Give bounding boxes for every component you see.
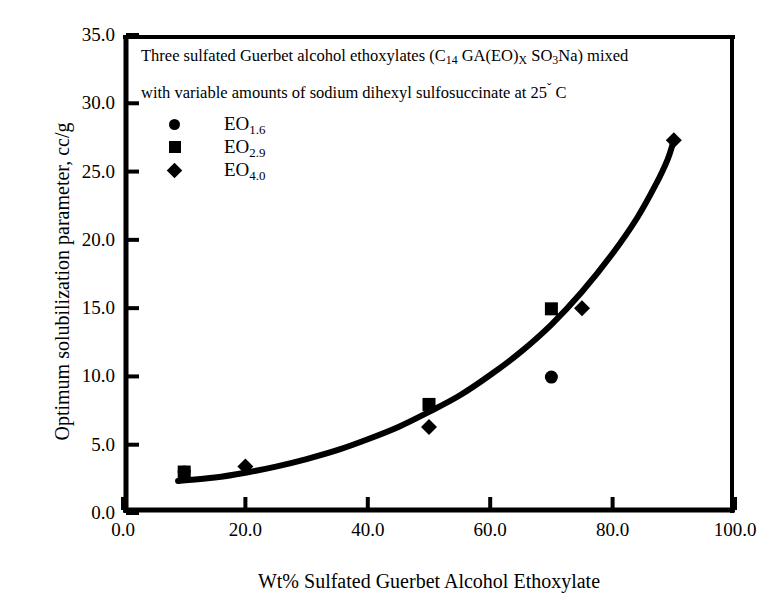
circle-marker-icon xyxy=(169,119,180,130)
caption-l1-sub2: X xyxy=(519,53,528,67)
caption-line-1: Three sulfated Guerbet alcohol ethoxylat… xyxy=(141,42,701,74)
chart-legend: EO1.6EO2.9EO4.0 xyxy=(168,112,348,181)
data-point-diamond xyxy=(666,132,682,148)
chart-caption: Three sulfated Guerbet alcohol ethoxylat… xyxy=(141,42,701,107)
legend-label-base: EO xyxy=(224,159,249,180)
square-marker-icon xyxy=(169,141,181,153)
caption-l1-b: GA(EO) xyxy=(458,46,519,65)
caption-l1-sub1: 14 xyxy=(446,53,458,67)
caption-l2-b: C xyxy=(551,83,566,102)
y-tick-label: 35.0 xyxy=(51,25,115,44)
caption-line-2: with variable amounts of sodium dihexyl … xyxy=(141,74,701,107)
chart-figure: 0.05.010.015.020.025.030.035.0 0.020.040… xyxy=(0,0,784,616)
caption-l1-d: Na) mixed xyxy=(558,46,628,65)
legend-label: EO4.0 xyxy=(224,158,265,187)
data-point-square xyxy=(178,466,191,479)
legend-label-subscript: 4.0 xyxy=(249,168,265,183)
x-tick-label: 60.0 xyxy=(450,520,530,539)
legend-label-base: EO xyxy=(224,113,249,134)
diamond-marker-icon xyxy=(167,163,183,179)
y-axis-title: Optimum solubilization parameter, cc/g xyxy=(51,52,74,512)
data-point-square xyxy=(545,302,558,315)
caption-l1-c: SO xyxy=(527,46,552,65)
legend-item-diamond: EO4.0 xyxy=(168,158,348,181)
caption-l2-a: with variable amounts of sodium dihexyl … xyxy=(141,83,547,102)
legend-item-square: EO2.9 xyxy=(168,135,348,158)
x-tick-label: 100.0 xyxy=(695,520,775,539)
legend-item-circle: EO1.6 xyxy=(168,112,348,135)
x-tick-label: 20.0 xyxy=(205,520,285,539)
data-point-diamond xyxy=(421,419,437,435)
x-tick-label: 80.0 xyxy=(573,520,653,539)
caption-l1-a: Three sulfated Guerbet alcohol ethoxylat… xyxy=(141,46,446,65)
x-axis-title: Wt% Sulfated Guerbet Alcohol Ethoxylate xyxy=(123,570,735,593)
legend-label-base: EO xyxy=(224,136,249,157)
data-point-circle xyxy=(545,371,558,384)
x-tick-label: 0.0 xyxy=(83,520,163,539)
x-tick-label: 40.0 xyxy=(328,520,408,539)
data-point-square xyxy=(423,398,436,411)
